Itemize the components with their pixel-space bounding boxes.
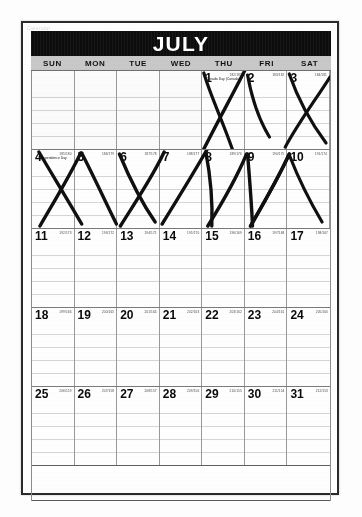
julian-counter: 204/161 xyxy=(272,310,284,314)
cell-rules xyxy=(245,85,287,149)
day-number: 20 xyxy=(120,309,133,322)
weekday-wed: WED xyxy=(160,56,203,70)
month-title: JULY xyxy=(153,33,210,54)
week-row: 1 182/183 Canada Day (Canada) 2 183/182 … xyxy=(32,71,330,150)
day-cell[interactable]: 2 183/182 xyxy=(245,71,288,149)
julian-counter: 192/173 xyxy=(59,231,71,235)
day-cell xyxy=(160,71,203,149)
day-number: 28 xyxy=(163,388,176,401)
day-number: 7 xyxy=(163,151,170,164)
weekday-fri: FRI xyxy=(245,56,288,70)
julian-counter: 187/178 xyxy=(144,152,156,156)
julian-counter: 210/155 xyxy=(230,389,242,393)
julian-counter: 203/162 xyxy=(230,310,242,314)
cell-rules xyxy=(245,322,287,386)
cell-rules xyxy=(202,164,244,228)
julian-counter: 190/175 xyxy=(272,152,284,156)
cell-rules xyxy=(75,164,117,228)
day-cell[interactable]: 18 199/166 xyxy=(32,308,75,386)
day-cell[interactable]: 12 193/172 xyxy=(75,229,118,307)
day-cell[interactable]: 21 202/163 xyxy=(160,308,203,386)
day-cell[interactable]: 4 185/180 Independence Day xyxy=(32,150,75,228)
weekday-sun: SUN xyxy=(31,56,74,70)
day-number: 8 xyxy=(205,151,212,164)
julian-counter: 191/174 xyxy=(315,152,327,156)
day-cell[interactable]: 31 212/153 xyxy=(287,387,330,465)
cell-rules xyxy=(75,85,117,149)
day-cell[interactable]: 24 205/160 xyxy=(287,308,330,386)
day-cell[interactable]: 11 192/173 xyxy=(32,229,75,307)
day-number: 26 xyxy=(78,388,91,401)
cell-rules xyxy=(160,401,202,465)
day-number: 2 xyxy=(248,72,255,85)
cell-rules xyxy=(287,85,329,149)
day-cell[interactable]: 28 209/156 xyxy=(160,387,203,465)
day-cell[interactable]: 5 186/179 xyxy=(75,150,118,228)
day-cell[interactable]: 3 184/181 xyxy=(287,71,330,149)
julian-counter: 207/158 xyxy=(102,389,114,393)
cell-rules xyxy=(287,243,330,307)
day-number: 13 xyxy=(120,230,133,243)
day-number: 6 xyxy=(120,151,127,164)
day-cell[interactable]: 14 195/170 xyxy=(160,229,203,307)
day-number: 11 xyxy=(35,230,48,243)
day-number: 24 xyxy=(290,309,303,322)
day-cell[interactable]: 6 187/178 xyxy=(117,150,160,228)
day-cell[interactable]: 7 188/177 xyxy=(160,150,203,228)
weekday-header-row: SUN MON TUE WED THU FRI SAT xyxy=(31,56,331,71)
julian-counter: 193/172 xyxy=(102,231,114,235)
scanned-calendar-page: Calendar JULY SUN MON TUE WED THU FRI SA… xyxy=(21,21,339,495)
day-cell[interactable]: 15 196/169 xyxy=(202,229,245,307)
julian-counter: 186/179 xyxy=(102,152,114,156)
day-number: 15 xyxy=(205,230,218,243)
day-cell[interactable]: 1 182/183 Canada Day (Canada) xyxy=(202,71,245,149)
julian-counter: 212/153 xyxy=(316,389,328,393)
day-cell[interactable]: 17 198/167 xyxy=(287,229,330,307)
day-cell[interactable]: 20 201/164 xyxy=(117,308,160,386)
weekday-mon: MON xyxy=(74,56,117,70)
week-row: 4 185/180 Independence Day 5 186/179 6 1… xyxy=(32,150,330,229)
day-cell[interactable]: 19 200/165 xyxy=(75,308,118,386)
day-number: 12 xyxy=(78,230,91,243)
julian-counter: 197/168 xyxy=(272,231,284,235)
day-cell[interactable]: 26 207/158 xyxy=(75,387,118,465)
cell-rules xyxy=(75,322,117,386)
day-number: 30 xyxy=(248,388,261,401)
calendar-body: JULY SUN MON TUE WED THU FRI SAT 1 182/1… xyxy=(31,31,331,483)
cell-rules xyxy=(117,401,159,465)
day-cell[interactable]: 10 191/174 xyxy=(287,150,330,228)
day-cell[interactable]: 25 206/159 xyxy=(32,387,75,465)
cell-rules xyxy=(245,243,287,307)
day-cell[interactable]: 23 204/161 xyxy=(245,308,288,386)
day-cell xyxy=(117,71,160,149)
julian-counter: 201/164 xyxy=(144,310,156,314)
day-number: 18 xyxy=(35,309,48,322)
day-number: 9 xyxy=(248,151,255,164)
day-cell[interactable]: 29 210/155 xyxy=(202,387,245,465)
day-number: 17 xyxy=(290,230,303,243)
julian-counter: 199/166 xyxy=(59,310,71,314)
cell-rules xyxy=(32,164,74,228)
day-cell[interactable]: 13 194/171 xyxy=(117,229,160,307)
julian-counter: 198/167 xyxy=(316,231,328,235)
day-cell[interactable]: 30 211/154 xyxy=(245,387,288,465)
day-number: 5 xyxy=(78,151,85,164)
day-cell[interactable]: 16 197/168 xyxy=(245,229,288,307)
day-cell[interactable]: 8 189/176 xyxy=(202,150,245,228)
cell-rules xyxy=(117,243,159,307)
cell-rules xyxy=(75,243,117,307)
cell-rules xyxy=(32,85,74,149)
day-cell[interactable]: 22 203/162 xyxy=(202,308,245,386)
julian-counter: 184/181 xyxy=(315,73,327,77)
cell-rules xyxy=(245,164,287,228)
cell-rules xyxy=(117,85,159,149)
weekday-sat: SAT xyxy=(288,56,331,70)
julian-counter: 211/154 xyxy=(272,389,284,393)
day-cell[interactable]: 27 208/157 xyxy=(117,387,160,465)
day-number: 23 xyxy=(248,309,261,322)
day-number: 14 xyxy=(163,230,176,243)
julian-counter: 205/160 xyxy=(316,310,328,314)
day-cell[interactable]: 9 190/175 xyxy=(245,150,288,228)
cell-rules xyxy=(117,164,159,228)
cell-rules xyxy=(202,85,244,149)
